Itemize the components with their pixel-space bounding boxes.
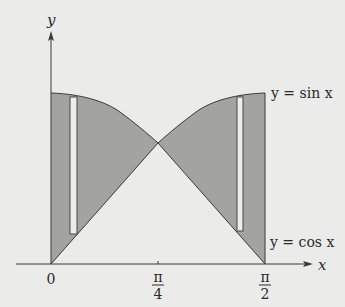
area-between-curves-diagram: y x y = sin x y = cos x 0 π 4 π 2 xyxy=(0,0,345,307)
tick-pi4-denominator: 4 xyxy=(154,286,163,302)
y-axis-label: y xyxy=(46,11,56,29)
tick-pi2-numerator: π xyxy=(260,269,269,285)
x-axis-label: x xyxy=(318,256,327,274)
tick-pi2-denominator: 2 xyxy=(261,286,270,302)
tick-pi4-numerator: π xyxy=(153,269,162,285)
tick-label-origin: 0 xyxy=(47,271,56,287)
tick-label-pi-over-4: π 4 xyxy=(152,269,164,302)
sin-curve-label: y = sin x xyxy=(270,85,333,101)
right-strip xyxy=(237,97,243,231)
left-strip xyxy=(70,97,77,234)
cos-curve-label: y = cos x xyxy=(269,234,334,250)
tick-label-pi-over-2: π 2 xyxy=(259,269,271,302)
shaded-region xyxy=(51,93,265,264)
